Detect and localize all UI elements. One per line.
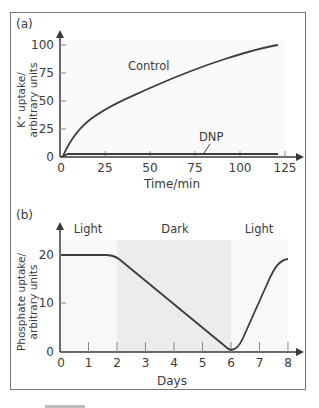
panel-b-ylabel: Phosphate uptake/ arbitrary units <box>15 252 39 351</box>
svg-text:25: 25 <box>39 122 54 136</box>
region-label-dark: Dark <box>161 222 189 236</box>
svg-text:75: 75 <box>187 161 202 175</box>
panel-b-ylabel-line1: Phosphate uptake/ <box>15 252 27 351</box>
dnp-series-label: DNP <box>199 130 223 144</box>
region-label-light-2: Light <box>245 222 274 236</box>
dark-region <box>117 240 231 352</box>
panel-a-ylabel: K⁺ uptake/ arbitrary units <box>15 63 39 138</box>
svg-text:4: 4 <box>170 356 178 370</box>
panel-a-xlabel: Time/min <box>143 177 200 191</box>
svg-text:8: 8 <box>284 356 292 370</box>
panel-b-ylabel-line2: arbitrary units <box>27 265 39 340</box>
light-region-1 <box>61 240 117 352</box>
svg-text:7: 7 <box>256 356 264 370</box>
light-region-2 <box>231 240 288 352</box>
svg-text:0: 0 <box>57 356 65 370</box>
panel-b: (b) Light Dark Light Phosphate uptake/ a… <box>15 208 302 388</box>
panel-a-x-tick-labels: 0 25 50 75 100 125 <box>57 161 296 175</box>
panel-a-ylabel-line2: arbitrary units <box>27 63 39 138</box>
panel-a-ylabel-line1: K⁺ uptake/ <box>15 72 27 128</box>
svg-text:6: 6 <box>227 356 235 370</box>
panel-a: (a) K⁺ uptake/ arbitrary units 0 25 50 7… <box>15 17 302 191</box>
panel-b-tag: (b) <box>16 208 33 222</box>
svg-text:100: 100 <box>31 38 54 52</box>
svg-text:5: 5 <box>199 356 207 370</box>
control-series-label: Control <box>128 59 170 73</box>
svg-text:125: 125 <box>274 161 297 175</box>
svg-text:10: 10 <box>39 296 54 310</box>
panel-b-y-tick-labels: 0 10 20 <box>39 248 54 359</box>
panel-a-plot-bg <box>61 40 285 156</box>
svg-text:20: 20 <box>39 248 54 262</box>
svg-text:50: 50 <box>39 94 54 108</box>
svg-text:0: 0 <box>46 345 54 359</box>
svg-text:75: 75 <box>39 66 54 80</box>
region-label-light-1: Light <box>74 222 103 236</box>
svg-text:0: 0 <box>57 161 65 175</box>
svg-text:0: 0 <box>46 150 54 164</box>
svg-text:100: 100 <box>229 161 252 175</box>
svg-text:1: 1 <box>85 356 93 370</box>
panel-b-x-tick-labels: 0 1 2 3 4 5 6 7 8 <box>57 356 292 370</box>
svg-text:50: 50 <box>142 161 157 175</box>
svg-text:3: 3 <box>142 356 150 370</box>
svg-text:25: 25 <box>97 161 112 175</box>
figure-canvas: (a) K⁺ uptake/ arbitrary units 0 25 50 7… <box>0 0 319 408</box>
svg-text:2: 2 <box>113 356 121 370</box>
panel-b-xlabel: Days <box>157 374 187 388</box>
panel-a-tag: (a) <box>16 17 33 31</box>
